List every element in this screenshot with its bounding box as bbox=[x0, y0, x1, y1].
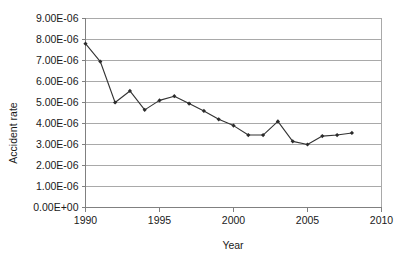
x-axis-tick-labels-group: 19901995200020052010 bbox=[74, 214, 394, 226]
plot-frame bbox=[86, 19, 382, 208]
y-axis-tick-label: 0.00E+00 bbox=[33, 201, 78, 213]
data-point-marker bbox=[217, 117, 221, 121]
y-axis-ticks-group bbox=[82, 19, 86, 208]
data-point-marker bbox=[335, 133, 339, 137]
y-axis-tick-label: 8.00E-06 bbox=[36, 33, 79, 45]
gridlines-group bbox=[86, 19, 382, 187]
y-axis-tick-label: 3.00E-06 bbox=[36, 138, 79, 150]
y-axis-tick-label: 7.00E-06 bbox=[36, 54, 79, 66]
data-point-marker bbox=[350, 131, 354, 135]
y-axis-tick-label: 1.00E-06 bbox=[36, 180, 79, 192]
plot-area-border bbox=[86, 19, 382, 208]
data-point-marker bbox=[172, 94, 176, 98]
accident-rate-chart: 0.00E+001.00E-062.00E-063.00E-064.00E-06… bbox=[0, 0, 406, 261]
data-point-marker bbox=[305, 142, 309, 146]
chart-canvas: 0.00E+001.00E-062.00E-063.00E-064.00E-06… bbox=[0, 0, 406, 261]
y-axis-title: Accident rate bbox=[7, 102, 19, 163]
x-axis-tick-label: 1990 bbox=[74, 214, 98, 226]
x-axis-ticks-group bbox=[86, 208, 382, 212]
y-axis-tick-label: 5.00E-06 bbox=[36, 96, 79, 108]
x-axis-tick-label: 1995 bbox=[148, 214, 172, 226]
x-axis-tick-label: 2010 bbox=[370, 214, 394, 226]
y-axis-tick-label: 2.00E-06 bbox=[36, 159, 79, 171]
y-axis-tick-label: 6.00E-06 bbox=[36, 75, 79, 87]
y-axis-tick-label: 9.00E-06 bbox=[36, 12, 79, 24]
series-line-accident-rate bbox=[86, 44, 352, 145]
x-axis-tick-label: 2005 bbox=[296, 214, 320, 226]
data-series-group bbox=[83, 42, 354, 147]
x-axis-title: Year bbox=[222, 239, 244, 251]
y-axis-tick-label: 4.00E-06 bbox=[36, 117, 79, 129]
y-axis-tick-labels-group: 0.00E+001.00E-062.00E-063.00E-064.00E-06… bbox=[33, 12, 78, 213]
data-point-marker bbox=[202, 109, 206, 113]
x-axis-tick-label: 2000 bbox=[222, 214, 246, 226]
data-point-marker bbox=[320, 134, 324, 138]
